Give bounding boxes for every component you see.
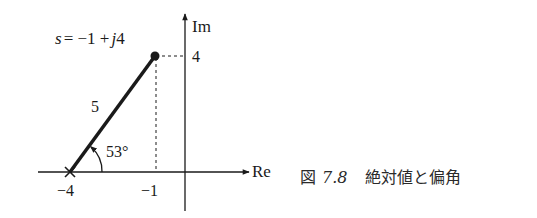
figure-prefix: 図 — [300, 168, 316, 187]
tick-label-re-neg4: −4 — [57, 182, 74, 199]
figure-number: 7.8 — [322, 168, 347, 187]
magnitude-label: 5 — [91, 98, 99, 115]
tick-label-im-4: 4 — [192, 48, 200, 65]
figure-caption: 図7.8絶対値と偏角 — [300, 164, 461, 188]
imaginary-axis-label: Im — [192, 17, 211, 36]
tick-label-re-neg1: −1 — [141, 182, 158, 199]
angle-arc — [91, 147, 102, 172]
figure-title: 絶対値と偏角 — [365, 168, 461, 187]
point-label: s= −1 +j4 — [55, 29, 125, 48]
real-axis-label: Re — [252, 162, 271, 181]
point-s-dot — [151, 52, 160, 61]
angle-label: 53° — [106, 143, 128, 160]
